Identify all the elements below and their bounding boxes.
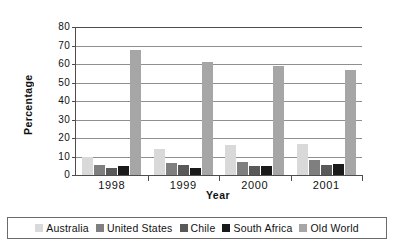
legend-item-south-africa[interactable]: South Africa [222, 223, 292, 234]
bar-chile-1999 [178, 165, 189, 175]
bar-chile-2001 [321, 165, 332, 175]
bar-south-africa-2000 [261, 166, 272, 175]
bar-chile-1998 [106, 168, 117, 175]
chart-legend: AustraliaUnited StatesChileSouth AfricaO… [7, 217, 387, 239]
bar-australia-2000 [225, 145, 236, 175]
legend-swatch-icon [96, 224, 104, 232]
y-axis-tick-mark [72, 175, 76, 176]
bar-south-africa-1999 [190, 168, 201, 175]
bar-group [291, 27, 363, 175]
legend-label: Chile [191, 223, 216, 234]
legend-swatch-icon [180, 224, 188, 232]
legend-item-chile[interactable]: Chile [180, 223, 216, 234]
bar-old-world-1999 [202, 62, 213, 175]
y-axis-label: Percentage [20, 55, 36, 155]
bar-old-world-2001 [345, 70, 356, 175]
legend-label: United States [107, 223, 173, 234]
legend-label: Australia [46, 223, 89, 234]
y-axis-tick-label: 20 [40, 133, 70, 143]
x-axis-separator [219, 175, 220, 181]
y-axis-tick-label: 80 [40, 22, 70, 32]
y-axis-tick-label: 40 [40, 96, 70, 106]
bar-south-africa-1998 [118, 166, 129, 175]
legend-label: Old World [310, 223, 358, 234]
legend-label: South Africa [233, 223, 292, 234]
legend-swatch-icon [222, 224, 230, 232]
bar-chile-2000 [249, 166, 260, 175]
bar-group [148, 27, 220, 175]
bar-australia-1998 [82, 157, 93, 176]
bar-group [219, 27, 291, 175]
bar-old-world-2000 [273, 66, 284, 175]
bar-united-states-2000 [237, 162, 248, 175]
legend-swatch-icon [35, 224, 43, 232]
bar-australia-2001 [297, 144, 308, 175]
y-axis-tick-label: 50 [40, 78, 70, 88]
bar-australia-1999 [154, 149, 165, 175]
legend-item-australia[interactable]: Australia [35, 223, 89, 234]
y-axis-tick-label: 30 [40, 115, 70, 125]
y-axis-tick-label: 70 [40, 41, 70, 51]
y-axis-tick-label: 60 [40, 59, 70, 69]
legend-item-united-states[interactable]: United States [96, 223, 173, 234]
legend-swatch-icon [299, 224, 307, 232]
bar-group [76, 27, 148, 175]
x-axis-separator [362, 175, 363, 181]
x-axis-separator [148, 175, 149, 181]
bar-united-states-2001 [309, 160, 320, 175]
legend-item-old-world[interactable]: Old World [299, 223, 358, 234]
x-axis-separator [291, 175, 292, 181]
bar-old-world-1998 [130, 50, 141, 175]
chart-screenshot: Percentage 01020304050607080199819992000… [0, 0, 398, 245]
bar-united-states-1998 [94, 165, 105, 175]
bar-united-states-1999 [166, 163, 177, 175]
y-axis-tick-label: 0 [40, 170, 70, 180]
chart-plot-wrapper: Percentage 01020304050607080199819992000… [0, 0, 398, 208]
y-axis-tick-label: 10 [40, 152, 70, 162]
bar-south-africa-2001 [333, 164, 344, 175]
plot-area: 010203040506070801998199920002001 [75, 27, 362, 176]
x-axis-label: Year [75, 189, 361, 201]
